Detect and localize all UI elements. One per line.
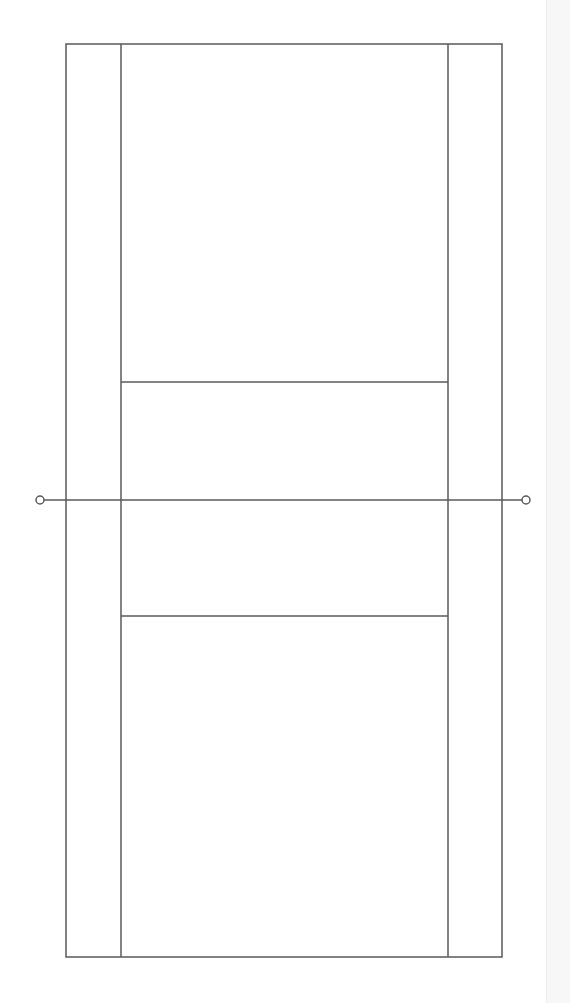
left-net-post-icon [36,496,44,504]
right-net-post-icon [522,496,530,504]
